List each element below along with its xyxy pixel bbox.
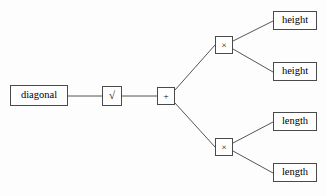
edge-times-lower-to-length-1 bbox=[233, 122, 273, 143]
node-height-2[interactable]: height bbox=[273, 62, 317, 81]
square-root-icon: √ bbox=[109, 90, 115, 101]
node-times-lower[interactable]: × bbox=[215, 138, 233, 156]
edge-plus-to-times-upper bbox=[175, 45, 215, 90]
node-height-1-label: height bbox=[282, 15, 308, 26]
node-diagonal[interactable]: diagonal bbox=[10, 85, 68, 106]
edge-times-upper-to-height-2 bbox=[233, 49, 273, 72]
node-length-2[interactable]: length bbox=[273, 163, 317, 182]
edge-times-upper-to-height-1 bbox=[233, 21, 273, 41]
node-times-upper[interactable]: × bbox=[215, 36, 233, 54]
plus-icon: + bbox=[163, 92, 168, 101]
node-plus[interactable]: + bbox=[157, 87, 175, 105]
edge-times-lower-to-length-2 bbox=[233, 151, 273, 173]
edge-plus-to-times-lower bbox=[175, 103, 215, 147]
node-length-1-label: length bbox=[282, 116, 308, 127]
multiply-icon: × bbox=[221, 143, 226, 152]
multiply-icon: × bbox=[221, 41, 226, 50]
node-diagonal-label: diagonal bbox=[21, 90, 57, 101]
node-height-1[interactable]: height bbox=[273, 11, 317, 30]
node-height-2-label: height bbox=[282, 66, 308, 77]
node-sqrt[interactable]: √ bbox=[102, 86, 122, 106]
node-length-2-label: length bbox=[282, 167, 308, 178]
node-length-1[interactable]: length bbox=[273, 112, 317, 131]
expression-tree-diagram: diagonal √ + × × height height length le… bbox=[0, 0, 327, 196]
